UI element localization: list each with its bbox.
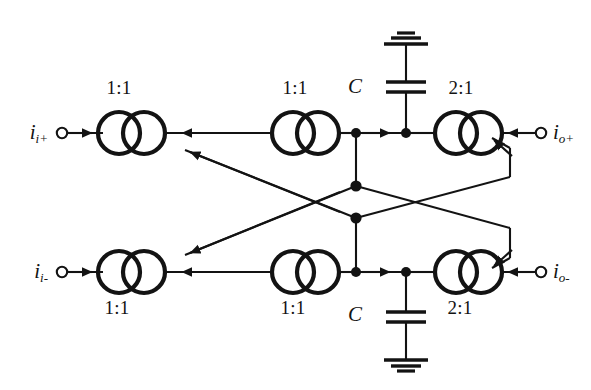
output-terminal-negative-node[interactable] — [536, 267, 546, 277]
transformer-bottom-right-coil-b — [460, 251, 502, 293]
wire-cross-bottom-to-rightjog — [356, 177, 510, 218]
label-input-negative: ii- — [34, 259, 48, 286]
wire-cross-top-to-rightjog — [356, 186, 510, 228]
junction-dot-top-rail — [351, 128, 361, 138]
transformer-top-middle-coil-a — [272, 112, 314, 154]
arrow-cross-top-to-bottomleft — [190, 192, 340, 253]
junction-dot-bottom-capacitor — [401, 267, 411, 277]
label-output-positive: io+ — [553, 120, 574, 147]
label-transformer-top-right-ratio: 2:1 — [448, 77, 473, 99]
label-transformer-top-left-ratio: 1:1 — [106, 77, 131, 99]
label-transformer-bottom-right-ratio: 2:1 — [447, 297, 472, 319]
arrow-cross-bottom-to-topleft — [190, 152, 340, 212]
label-output-negative: io- — [553, 259, 570, 286]
transformer-top-right-coil-a — [435, 112, 477, 154]
transformer-top-middle-coil-b — [297, 112, 339, 154]
transformer-bottom-left-coil-a — [98, 251, 140, 293]
junction-dot-top-cross — [350, 180, 361, 191]
label-input-positive: ii+ — [30, 120, 48, 147]
circuit-diagram: 1:1 1:1 2:1 1:1 1:1 2:1 C C ii+ ii- io+ … — [0, 0, 591, 390]
transformer-top-left-coil-b — [123, 112, 165, 154]
junction-dot-bottom-cross — [350, 212, 361, 223]
label-input-negative-subscript: i- — [40, 270, 48, 285]
label-output-positive-subscript: o+ — [559, 131, 574, 146]
transformer-top-left-coil-a — [98, 112, 140, 154]
output-terminal-positive-node[interactable] — [536, 128, 546, 138]
label-input-positive-subscript: i+ — [36, 131, 48, 146]
label-transformer-bottom-left-ratio: 1:1 — [104, 297, 129, 319]
label-transformer-bottom-middle-ratio: 1:1 — [280, 297, 305, 319]
transformer-bottom-middle-coil-b — [297, 251, 339, 293]
circuit-canvas — [0, 0, 591, 390]
label-output-negative-subscript: o- — [559, 270, 570, 285]
label-transformer-top-middle-ratio: 1:1 — [282, 77, 307, 99]
transformer-top-right-coil-b — [460, 112, 502, 154]
transformer-bottom-left-coil-b — [123, 251, 165, 293]
label-capacitor-bottom: C — [348, 302, 362, 327]
junction-dot-top-capacitor — [401, 128, 411, 138]
junction-dot-bottom-rail — [351, 267, 361, 277]
transformer-bottom-right-coil-a — [435, 251, 477, 293]
input-terminal-positive-node[interactable] — [57, 128, 67, 138]
label-capacitor-top: C — [348, 74, 362, 99]
transformer-bottom-middle-coil-a — [272, 251, 314, 293]
input-terminal-negative-node[interactable] — [57, 267, 67, 277]
